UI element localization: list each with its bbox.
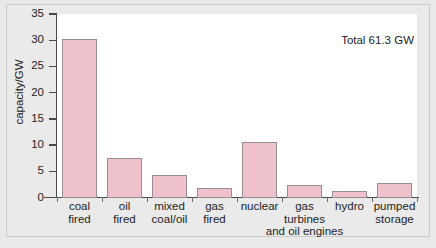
y-axis-title: capacity/GW [13,42,25,142]
bar[interactable] [152,175,187,197]
y-tick-label: 35 [4,8,44,20]
x-tick-label-extra-line: and oil engines [235,225,375,238]
y-tick-mark [49,144,57,145]
x-axis-labels: coalfiredoilfiredmixedcoal/oilgasfirednu… [0,200,436,248]
y-tick-mark [49,66,57,67]
y-tick-mark [49,171,57,172]
x-tick-label: pumpedstorage [335,200,436,225]
y-tick-mark [49,92,57,93]
bar[interactable] [197,188,232,198]
x-tick-label-line: storage [335,213,436,226]
chart-figure: 05101520253035 capacity/GW Total 61.3 GW… [0,0,436,248]
bar[interactable] [107,158,142,197]
bar[interactable] [242,142,277,198]
y-tick-label: 5 [4,165,44,177]
bar[interactable] [62,39,97,198]
bar[interactable] [377,183,412,197]
bars-layer [57,14,417,198]
x-tick-label-line: pumped [335,200,436,213]
y-tick-mark [49,13,57,14]
y-tick-mark [49,40,57,41]
y-tick-mark [49,197,57,198]
y-tick-mark [49,118,57,119]
bar[interactable] [287,185,322,197]
bar[interactable] [332,191,367,197]
